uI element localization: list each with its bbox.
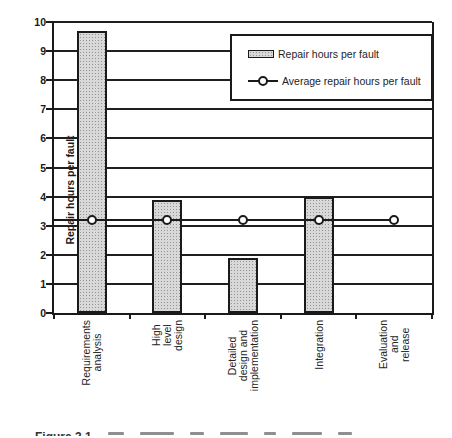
line-marker-icon: [87, 215, 97, 225]
y-tick-label: 2: [12, 248, 46, 262]
x-tick: [280, 313, 282, 319]
y-tick-label: 9: [12, 44, 46, 58]
caption-label: Figure 3.1: [35, 430, 92, 436]
x-category-label: Integration: [313, 320, 324, 370]
caption-text-smudge: [140, 432, 174, 435]
y-tick-label: 8: [12, 73, 46, 87]
line-marker-icon: [314, 215, 324, 225]
gridline: [54, 167, 432, 169]
gridline: [54, 225, 432, 227]
gridline: [54, 21, 432, 23]
y-tick-label: 10: [12, 15, 46, 29]
x-category-label: Evaluation and release: [378, 320, 411, 369]
legend: Repair hours per fault Average repair ho…: [230, 34, 433, 101]
gridline: [54, 137, 432, 139]
x-tick: [355, 313, 357, 319]
circle-marker-icon: [258, 76, 268, 86]
caption-text-smudge: [220, 432, 248, 435]
average-line: [54, 219, 394, 221]
figure: Repair hours per fault 012345678910Requi…: [0, 0, 452, 438]
y-tick-label: 6: [12, 131, 46, 145]
y-tick: [46, 108, 54, 110]
gridline: [54, 196, 432, 198]
gridline: [54, 108, 432, 110]
y-tick-label: 4: [12, 190, 46, 204]
y-tick: [46, 79, 54, 81]
bar-series-swatch-icon: [248, 50, 274, 58]
x-tick: [53, 313, 55, 319]
y-tick-label: 1: [12, 277, 46, 291]
legend-label: Repair hours per fault: [278, 48, 379, 60]
y-tick: [46, 254, 54, 256]
bar-category-0: [77, 31, 107, 313]
y-tick: [46, 50, 54, 52]
legend-item-bar-series: Repair hours per fault: [248, 48, 431, 60]
legend-item-line-series: Average repair hours per fault: [248, 75, 431, 87]
line-marker-icon: [389, 215, 399, 225]
y-tick-label: 7: [12, 102, 46, 116]
x-category-label: High level design: [151, 320, 184, 351]
y-tick: [46, 167, 54, 169]
caption-text-smudge: [292, 432, 322, 435]
y-tick: [46, 21, 54, 23]
line-marker-icon: [238, 215, 248, 225]
y-tick: [46, 225, 54, 227]
caption-text-smudge: [190, 432, 204, 435]
legend-label: Average repair hours per fault: [282, 75, 421, 87]
x-category-label: Requirements analysis: [81, 320, 103, 385]
x-category-label: Detailed design and implementation: [227, 320, 260, 391]
gridline: [54, 254, 432, 256]
caption-text-smudge: [338, 432, 352, 435]
y-tick: [46, 283, 54, 285]
x-tick: [204, 313, 206, 319]
y-tick: [46, 137, 54, 139]
x-tick: [129, 313, 131, 319]
caption-text-smudge: [108, 432, 124, 435]
y-tick-label: 5: [12, 161, 46, 175]
bar-category-2: [228, 258, 258, 313]
y-tick-label: 0: [12, 306, 46, 320]
x-tick: [431, 313, 433, 319]
caption-text-smudge: [264, 432, 276, 435]
line-marker-icon: [248, 76, 278, 86]
figure-caption-fragment: Figure 3.1: [35, 430, 444, 436]
y-tick-label: 3: [12, 219, 46, 233]
y-tick: [46, 196, 54, 198]
